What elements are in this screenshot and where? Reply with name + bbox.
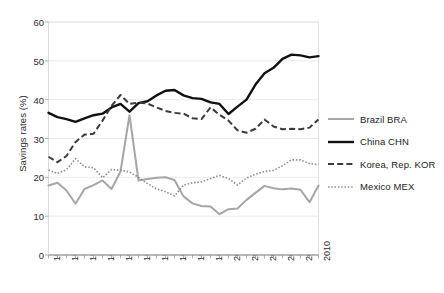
chart-legend: Brazil BRAChina CHNKorea, Rep. KORMexico…: [328, 108, 444, 198]
savings-rates-chart: Savings rates (%) 0102030405060 19801982…: [0, 0, 444, 293]
legend-line-icon-korea: [328, 158, 354, 170]
legend-label-korea: Korea, Rep. KOR: [360, 159, 435, 170]
legend-line-icon-mexico: [328, 181, 354, 193]
legend-label-china: China CHN: [360, 136, 409, 147]
legend-item-china[interactable]: China CHN: [328, 131, 444, 154]
legend-item-brazil[interactable]: Brazil BRA: [328, 108, 444, 131]
legend-line-icon-china: [328, 136, 354, 148]
legend-label-mexico: Mexico MEX: [360, 181, 414, 192]
legend-line-icon-brazil: [328, 113, 354, 125]
legend-label-brazil: Brazil BRA: [360, 114, 407, 125]
legend-item-mexico[interactable]: Mexico MEX: [328, 176, 444, 199]
legend-item-korea[interactable]: Korea, Rep. KOR: [328, 153, 444, 176]
